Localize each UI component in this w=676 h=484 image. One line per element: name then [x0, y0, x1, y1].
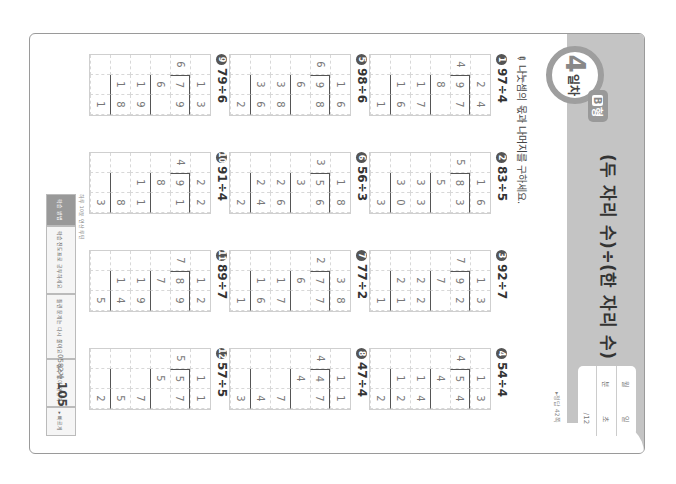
grid-cell: 6 — [290, 271, 310, 291]
problem-number: 6 — [356, 152, 367, 163]
grid-cell: 1 — [130, 271, 150, 291]
grid-cell — [390, 153, 410, 173]
grid-cell: 9 — [130, 95, 150, 115]
page-number-value: 105 — [55, 382, 69, 407]
problem-4: 454÷413454414122 — [369, 348, 509, 443]
grid-cell: 8 — [330, 193, 350, 213]
grid-cell: 1 — [250, 271, 270, 291]
problem-9: 979÷613679619181 — [89, 54, 229, 149]
grid-cell: 3 — [330, 271, 350, 291]
footer-tab: ▸ 빠르게 — [46, 407, 76, 436]
grid-cell: 5 — [450, 369, 470, 389]
grid-cell — [150, 193, 170, 213]
problem-8: 847÷4114474743 — [229, 348, 369, 443]
grid-cell: 7 — [430, 271, 450, 291]
grid-cell: 7 — [170, 75, 190, 95]
grid-cell — [110, 349, 130, 369]
grid-cell: 9 — [170, 95, 190, 115]
grid-cell — [150, 251, 170, 271]
problem-11: 1189÷712789719145 — [89, 250, 229, 345]
grid-cell: 1 — [230, 291, 250, 311]
problem-expression: 79÷6 — [215, 68, 229, 103]
grid-cell: 7 — [170, 389, 190, 409]
grid-cell: 3 — [270, 75, 290, 95]
grid-cell: 3 — [250, 75, 270, 95]
score-row-time: 분 초 — [596, 366, 616, 436]
score-box: 월 일 분 초 /12 — [578, 366, 636, 436]
grid-cell — [130, 153, 150, 173]
grid-cell: 2 — [470, 75, 490, 95]
grid-cell: 1 — [110, 271, 130, 291]
grid-cell: 1 — [390, 291, 410, 311]
grid-cell: 1 — [390, 369, 410, 389]
grid-cell — [190, 153, 210, 173]
grid-cell — [250, 251, 270, 271]
grid-cell: 7 — [150, 271, 170, 291]
footer-tab: 학습 진도표로 공부하세요 — [46, 226, 76, 294]
grid-cell — [90, 251, 110, 271]
grid-cell — [370, 349, 390, 369]
grid-cell: 1 — [130, 193, 150, 213]
grid-cell — [90, 153, 110, 173]
grid-cell: 2 — [270, 173, 290, 193]
grid-cell: 5 — [150, 369, 170, 389]
grid-cell — [430, 251, 450, 271]
footer-tab: 틀린 문제는 다시 풀어요 — [46, 294, 76, 359]
problem-number: 8 — [356, 348, 367, 359]
problem-expression: 97÷4 — [495, 68, 509, 103]
footer-note: 하루 10분 연산 루틴 — [79, 194, 86, 240]
grid-cell: 1 — [130, 75, 150, 95]
grid-cell: 7 — [450, 251, 470, 271]
grid-cell — [470, 349, 490, 369]
problem-title: 1257÷5 — [215, 348, 229, 443]
grid-cell — [370, 369, 390, 389]
grid-cell — [270, 251, 290, 271]
page-frame: (두 자리 수)÷(한 자리 수) (3) 월 일 분 초 /12 4 일차 — [29, 33, 645, 454]
grid-cell: 6 — [290, 75, 310, 95]
grid-cell — [90, 173, 110, 193]
grid-cell: 7 — [270, 291, 290, 311]
grid-cell — [250, 55, 270, 75]
grid-cell — [270, 55, 290, 75]
score-row-total: /12 — [577, 366, 596, 436]
problem-expression: 47÷4 — [355, 362, 369, 397]
day-label-text: 일차 — [567, 74, 584, 96]
grid-cell — [110, 251, 130, 271]
problem-number: 11 — [216, 250, 227, 261]
grid-cell: 1 — [330, 389, 350, 409]
long-division-grid: 115575752 — [89, 348, 211, 410]
score-total: /12 — [583, 401, 591, 436]
score-row-date: 월 일 — [616, 366, 636, 436]
grid-cell — [250, 153, 270, 173]
grid-cell: 1 — [130, 173, 150, 193]
problem-6: 656÷318356326242 — [229, 152, 369, 247]
grid-cell: 5 — [170, 369, 190, 389]
problem-expression: 56÷3 — [355, 166, 369, 201]
grid-cell: 6 — [470, 193, 490, 213]
grid-cell: 4 — [290, 369, 310, 389]
problem-number: 5 — [356, 54, 367, 65]
grid-cell — [150, 95, 170, 115]
type-tab: B 형 — [588, 90, 608, 122]
grid-cell: 8 — [170, 271, 190, 291]
grid-cell: 3 — [410, 193, 430, 213]
grid-cell — [90, 369, 110, 389]
grid-cell: 4 — [310, 349, 330, 369]
problem-10: 1091÷42249181183 — [89, 152, 229, 247]
grid-cell — [150, 291, 170, 311]
grid-cell: 7 — [410, 95, 430, 115]
problem-12: 1257÷5115575752 — [89, 348, 229, 443]
problem-1: 197÷424497817161 — [369, 54, 509, 149]
grid-cell: 1 — [370, 291, 390, 311]
grid-cell: 1 — [390, 75, 410, 95]
grid-cell: 1 — [410, 75, 430, 95]
grid-cell: 4 — [170, 153, 190, 173]
grid-cell — [290, 193, 310, 213]
grid-cell — [330, 55, 350, 75]
grid-cell: 3 — [230, 389, 250, 409]
grid-cell: 2 — [450, 291, 470, 311]
grid-cell — [290, 95, 310, 115]
grid-cell: 5 — [450, 153, 470, 173]
problem-title: 454÷4 — [495, 348, 509, 443]
grid-cell — [430, 193, 450, 213]
